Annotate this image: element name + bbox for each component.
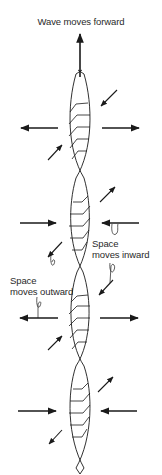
arrow-diagonal-icon xyxy=(48,90,117,444)
hatching-segment-4 xyxy=(69,383,90,437)
hatching-segment-3 xyxy=(69,295,90,349)
wave-diagram: Wave moves forward Space moves inward Sp… xyxy=(0,0,162,475)
hatching-segment-1 xyxy=(69,103,90,159)
wave-svg xyxy=(0,0,162,475)
